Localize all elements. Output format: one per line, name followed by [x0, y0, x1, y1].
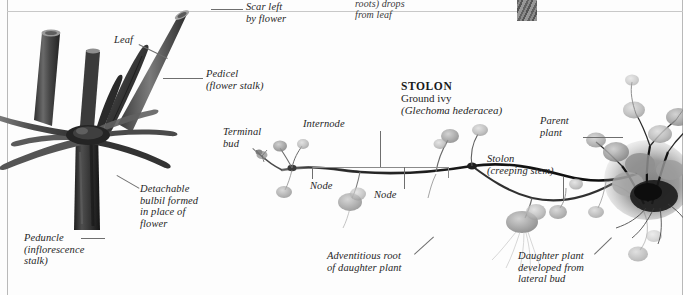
label-pedicel: Pedicel (flower stalk)	[206, 68, 264, 91]
label-terminal-bud: Terminal bud	[223, 126, 261, 149]
label-adventitious-root: Adventitious root of daughter plant	[327, 250, 402, 273]
label-node-left: Node	[310, 180, 333, 192]
label-leaf: Leaf	[114, 34, 133, 46]
label-node-right: Node	[374, 189, 397, 201]
leader-internode	[380, 131, 381, 167]
label-internode: Internode	[303, 118, 345, 130]
label-peduncle: Peduncle (inflorescence stalk)	[24, 232, 84, 267]
leader-parent-plant	[583, 137, 623, 138]
leader-peduncle	[81, 238, 105, 239]
leader-node-left	[312, 167, 313, 179]
leader-stolon	[563, 177, 564, 201]
internode-bracket	[312, 167, 449, 178]
stolon-common-name: Ground ivy	[401, 92, 502, 104]
leader-node-right	[404, 167, 405, 189]
label-scar-left-by-flower: Scar left by flower	[246, 1, 286, 24]
label-detachable-bulbil: Detachable bulbil formed in place of flo…	[140, 183, 198, 229]
stolon-title: STOLON	[401, 80, 502, 92]
leader-pedicel	[163, 78, 203, 79]
thumbnail-icon	[517, 0, 537, 21]
cutoff-center-fragment: roots) drops from leaf	[355, 0, 405, 20]
label-parent-plant: Parent plant	[540, 115, 569, 138]
label-stolon-creeping-stem: Stolon (creeping stem)	[487, 153, 554, 176]
leader-scar	[211, 9, 243, 10]
label-daughter-plant: Daughter plant developed from lateral bu…	[518, 250, 584, 285]
ground-ivy-stolon-illustration	[240, 112, 683, 295]
botanical-plate: roots) drops from leaf	[0, 0, 683, 295]
